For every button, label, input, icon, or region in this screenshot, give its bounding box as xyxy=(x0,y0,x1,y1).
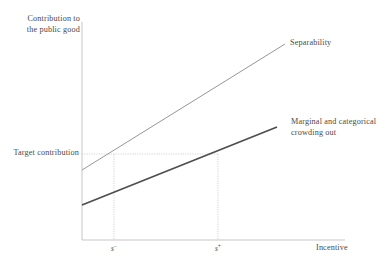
crowding-out-series-label: Marginal and categorical crowding out xyxy=(291,117,386,138)
x-tick-s-plus-superscript: + xyxy=(218,243,221,249)
x-tick-label-s-minus: s− xyxy=(102,243,126,253)
y-axis-title: Contribution to the public good xyxy=(0,14,80,35)
separability-series-label: Separability xyxy=(290,38,331,49)
contribution-incentive-chart: Contribution to the public good Target c… xyxy=(0,0,390,267)
x-tick-s-minus-superscript: − xyxy=(114,243,117,249)
crowding-out-line xyxy=(82,127,277,205)
target-contribution-label: Target contribution xyxy=(0,148,79,159)
separability-line xyxy=(82,44,285,170)
x-tick-label-s-plus: s+ xyxy=(206,243,230,253)
x-axis-title: Incentive xyxy=(316,243,348,254)
